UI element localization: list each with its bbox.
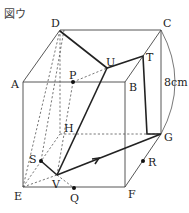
label-g: G — [164, 131, 173, 144]
label-p: P — [69, 69, 77, 82]
label-s: S — [29, 153, 37, 166]
label-h: H — [64, 122, 74, 135]
label-a: A — [10, 78, 20, 91]
label-c: C — [163, 17, 171, 30]
label-r: R — [148, 156, 157, 169]
point-q — [72, 186, 76, 190]
path-lines — [41, 31, 161, 175]
cube-diagram: 図ウ — [0, 0, 189, 213]
label-v: V — [51, 178, 61, 191]
label-t: T — [146, 51, 154, 64]
label-u: U — [106, 56, 115, 69]
point-s — [39, 159, 43, 163]
label-q: Q — [70, 192, 79, 205]
dimension-label: 8cm — [164, 76, 188, 89]
label-b: B — [129, 81, 137, 94]
label-d: D — [51, 17, 60, 30]
point-r — [141, 159, 145, 163]
figure-title: 図ウ — [4, 8, 26, 21]
label-f: F — [128, 188, 136, 201]
label-e: E — [14, 190, 22, 203]
